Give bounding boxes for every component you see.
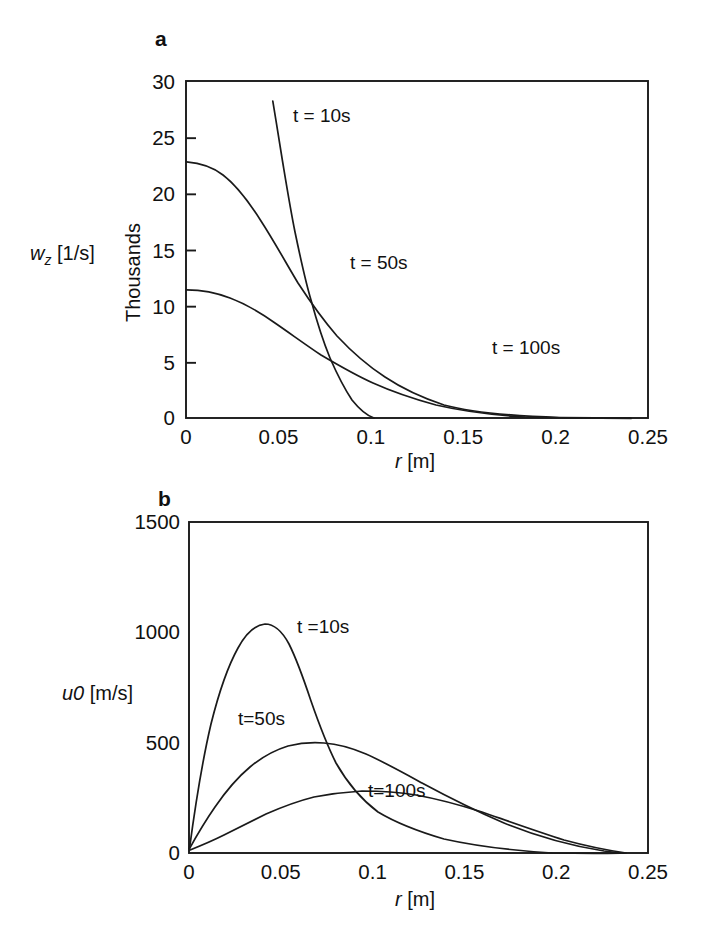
curve-a-t50s bbox=[187, 162, 631, 418]
y-title-unit-b: [m/s] bbox=[90, 682, 133, 704]
y-title-unit-a: [1/s] bbox=[57, 242, 95, 264]
y-title-subscript-a: z bbox=[44, 252, 51, 268]
panel-b-xtick-005: 0.05 bbox=[261, 860, 301, 884]
panel-b-plot-area bbox=[0, 470, 705, 942]
panel-a-ytick-5: 5 bbox=[120, 351, 175, 375]
curve-b-t10s bbox=[190, 624, 621, 853]
panel-a-ytick-25: 25 bbox=[120, 126, 175, 150]
panel-b-xtick-02: 0.2 bbox=[542, 860, 571, 884]
x-title-unit-b: [m] bbox=[407, 888, 435, 910]
figure-container: a 0 5 10 15 20 25 30 bbox=[0, 0, 705, 942]
panel-b-ytick-0: 0 bbox=[118, 841, 180, 865]
panel-a: a 0 5 10 15 20 25 30 bbox=[0, 0, 705, 470]
x-title-symbol-b: r bbox=[395, 888, 402, 910]
panel-a-ytick-20: 20 bbox=[120, 182, 175, 206]
t-10s-label-b: t =10s bbox=[297, 616, 349, 638]
panel-a-y-scale-label: Thousands bbox=[122, 223, 145, 322]
panel-b-x-axis-title: r [m] bbox=[395, 888, 435, 911]
panel-b-ytick-500: 500 bbox=[118, 731, 180, 755]
panel-a-xtick-02: 0.2 bbox=[541, 425, 570, 449]
panel-a-ytick-0: 0 bbox=[120, 406, 175, 430]
panel-a-xtick-0: 0 bbox=[180, 425, 191, 449]
panel-a-xtick-015: 0.15 bbox=[443, 425, 483, 449]
panel-a-y-axis-title: wz [1/s] bbox=[30, 242, 95, 268]
panel-b-ytick-1000: 1000 bbox=[118, 620, 180, 644]
t-50s-label-a: t = 50s bbox=[350, 252, 408, 274]
x-title-unit-a: [m] bbox=[407, 450, 435, 472]
panel-a-y-ticks bbox=[186, 138, 196, 363]
panel-a-xtick-01: 0.1 bbox=[357, 425, 386, 449]
panel-b: b 0 500 1000 1500 0 0.05 0.1 0.15 0.2 0.… bbox=[0, 470, 705, 942]
panel-a-xtick-005: 0.05 bbox=[258, 425, 298, 449]
panel-b-xtick-015: 0.15 bbox=[444, 860, 484, 884]
t-100s-label-a: t = 100s bbox=[492, 337, 560, 359]
panel-a-ytick-30: 30 bbox=[120, 70, 175, 94]
y-title-symbol-b: u0 bbox=[62, 682, 84, 704]
panel-b-axis-frame bbox=[189, 522, 648, 853]
panel-b-ytick-1500: 1500 bbox=[118, 510, 180, 534]
y-title-symbol-a: w bbox=[30, 242, 44, 264]
t-10s-label-a: t = 10s bbox=[293, 105, 351, 127]
panel-a-xtick-025: 0.25 bbox=[628, 425, 668, 449]
panel-a-axis-frame bbox=[186, 81, 648, 418]
panel-b-xtick-025: 0.25 bbox=[628, 860, 668, 884]
curve-a-t100s bbox=[187, 290, 632, 419]
panel-b-y-axis-title: u0 [m/s] bbox=[62, 682, 133, 705]
panel-a-plot-area bbox=[0, 0, 705, 470]
x-title-symbol-a: r bbox=[395, 450, 402, 472]
panel-b-xtick-01: 0.1 bbox=[358, 860, 387, 884]
t-50s-label-b: t=50s bbox=[238, 708, 285, 730]
t-100s-label-b: t=100s bbox=[368, 780, 426, 802]
panel-b-xtick-0: 0 bbox=[183, 860, 194, 884]
